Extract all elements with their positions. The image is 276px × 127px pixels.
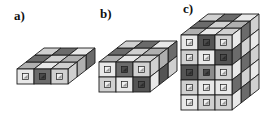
cube-stack-c [180, 12, 266, 118]
panel-label-a: a) [14, 9, 25, 22]
cube-stack-b [98, 39, 184, 100]
cube-stack-a [16, 46, 102, 92]
figure-canvas: a)b)c) [0, 0, 276, 127]
panel-label-b: b) [100, 7, 112, 20]
